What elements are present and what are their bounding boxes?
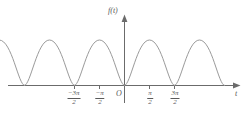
fraction-denominator: 2: [95, 99, 104, 106]
plot-canvas: [0, 0, 252, 119]
y-axis-arrowhead: [122, 15, 128, 23]
fraction-pos-3pi-2: 3π 2: [170, 90, 179, 107]
fraction-numerator: −π: [95, 90, 104, 97]
y-axis-label: f(t): [108, 7, 118, 15]
fraction-denominator: 2: [68, 99, 81, 106]
numerator-text: 3π: [72, 89, 79, 97]
tick-label-pos-pi-2: π 2: [147, 90, 153, 107]
fraction-numerator: −3π: [68, 90, 81, 97]
tick-label-pos-3pi-2: 3π 2: [170, 90, 179, 107]
arch-partial-left: [0, 40, 25, 86]
arch-zero: [125, 40, 175, 86]
arch-pos-pi: [175, 40, 225, 86]
fraction-numerator: π: [147, 90, 153, 97]
y-axis: [122, 15, 128, 104]
numerator-text: 3π: [171, 89, 178, 97]
fraction-pos-pi-2: π 2: [147, 90, 153, 107]
tick-label-neg-pi-2: −π 2: [95, 90, 104, 107]
fraction-numerator: 3π: [170, 90, 179, 97]
numerator-text: π: [148, 89, 152, 97]
tick-label-neg-3pi-2: −3π 2: [68, 90, 81, 107]
arch-neg-pi: [75, 40, 125, 86]
numerator-text: π: [100, 89, 104, 97]
fraction-neg-3pi-2: −3π 2: [68, 90, 81, 107]
fraction-neg-pi-2: −π 2: [95, 90, 104, 107]
fraction-denominator: 2: [147, 99, 153, 106]
arch-neg-2pi: [25, 40, 75, 86]
x-axis-arrowhead: [233, 83, 241, 89]
fraction-denominator: 2: [170, 99, 179, 106]
x-axis-label: t: [235, 90, 237, 98]
waveform-figure: f(t) t O −3π 2 −π 2 π 2 3π 2: [0, 0, 252, 119]
waveform-curve: [0, 40, 225, 86]
origin-label: O: [116, 90, 122, 98]
